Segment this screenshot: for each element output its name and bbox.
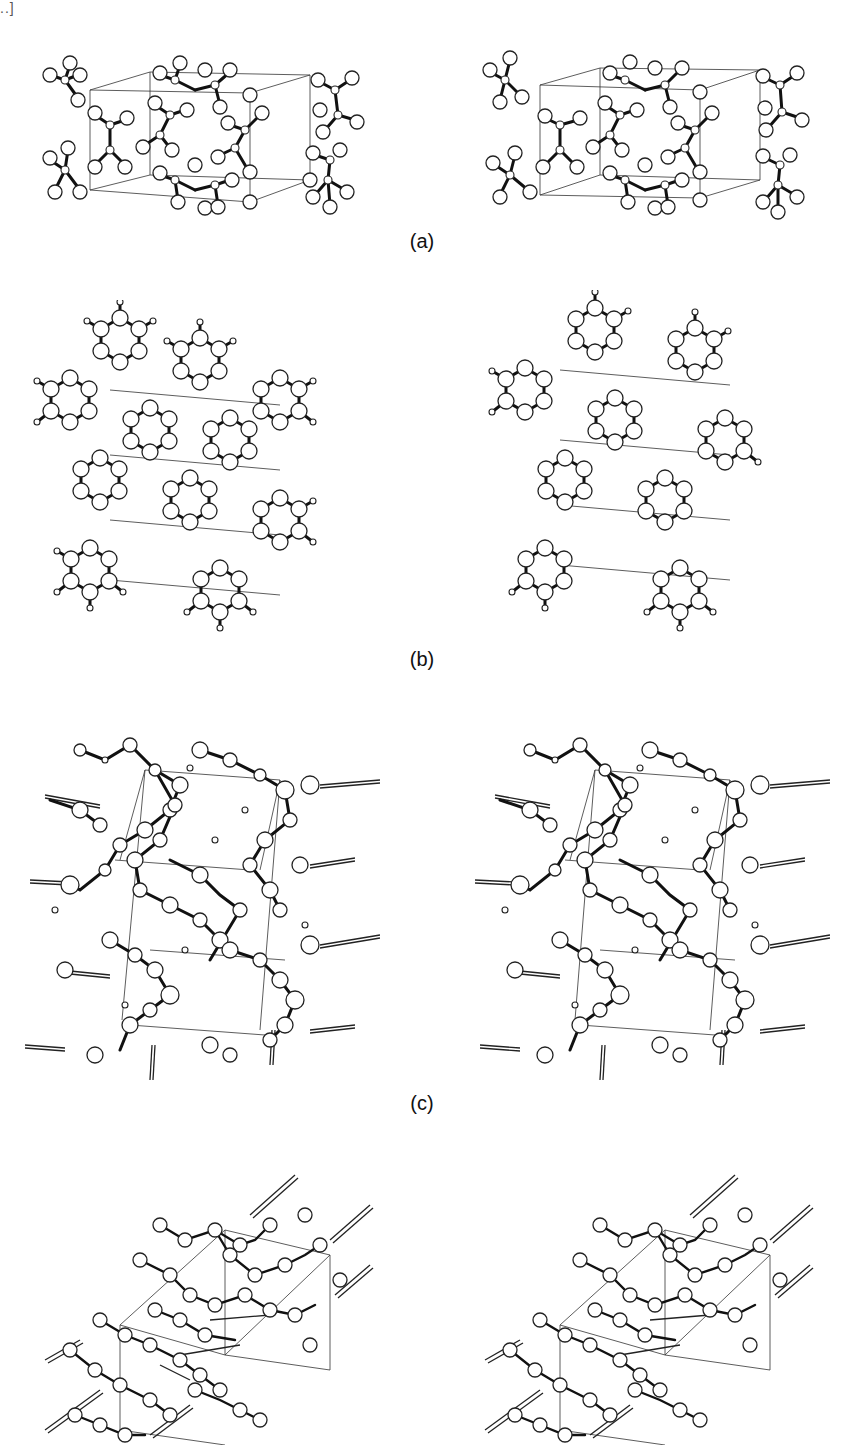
molecule-drawing	[20, 30, 380, 230]
panel-label-c: (c)	[0, 1092, 844, 1115]
panel-label-b: (b)	[0, 648, 844, 671]
corner-mark: ..]	[0, 0, 15, 16]
stereo-view-right	[460, 30, 820, 230]
molecule-drawing	[465, 1145, 844, 1445]
stereo-view-left	[20, 30, 380, 230]
panel-c	[0, 710, 844, 1090]
stereo-view-right	[465, 710, 844, 1080]
panel-a	[0, 20, 844, 230]
molecule-drawing	[460, 30, 820, 230]
stereo-view-right	[480, 290, 800, 640]
molecule-drawing	[30, 300, 350, 640]
stereo-view-left	[30, 300, 350, 640]
molecule-drawing	[465, 710, 844, 1080]
molecule-drawing	[10, 710, 390, 1080]
stereo-view-right	[465, 1145, 844, 1445]
panel-b	[0, 290, 844, 640]
panel-label-a: (a)	[0, 230, 844, 253]
stereo-view-left	[40, 1145, 420, 1445]
molecule-drawing	[40, 1145, 420, 1445]
molecule-drawing	[480, 290, 800, 640]
panel-d	[0, 1145, 844, 1445]
stereo-view-left	[10, 710, 390, 1080]
